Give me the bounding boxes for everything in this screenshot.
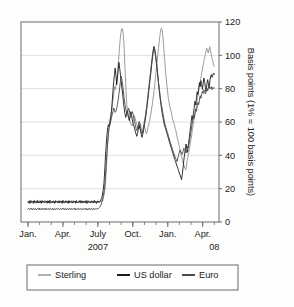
chart-figure: 020406080100120 Jan.Apr.JulyOct.Jan.Apr.… [0, 0, 294, 307]
y-tick-label: 40 [225, 151, 235, 161]
y-tick-label: 100 [225, 51, 240, 61]
y-tick-label: 80 [225, 84, 235, 94]
x-tick-label: July [90, 229, 107, 239]
legend-label-sterling: Sterling [55, 270, 86, 280]
y-tick-label: 0 [225, 217, 230, 227]
y-tick-label: 60 [225, 117, 235, 127]
x-axis-year-label: 2007 [88, 242, 108, 252]
chart-canvas: 020406080100120 Jan.Apr.JulyOct.Jan.Apr.… [0, 0, 294, 307]
y-tick-label: 120 [225, 17, 240, 27]
x-tick-label: Oct. [124, 229, 141, 239]
x-tick-label: Apr. [55, 229, 71, 239]
y-axis-title-text: Basis points (1% = 100 basis points) [246, 48, 256, 196]
x-tick-label: Jan. [19, 229, 36, 239]
y-axis-title: Basis points (1% = 100 basis points) [246, 48, 256, 196]
y-tick-label: 20 [225, 184, 235, 194]
legend-label-euro: Euro [199, 270, 218, 280]
x-tick-label: Apr. [195, 229, 211, 239]
legend-label-us-dollar: US dollar [134, 270, 172, 280]
x-axis-year-label: 08 [209, 242, 219, 252]
x-tick-label: Jan. [159, 229, 176, 239]
